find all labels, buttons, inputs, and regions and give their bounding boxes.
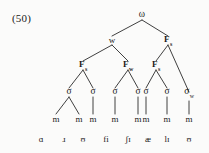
node-mora-4: m	[111, 115, 118, 124]
tree-edges	[0, 0, 209, 153]
node-syllable-3: σ	[112, 87, 117, 98]
foot-subscript: s	[158, 66, 160, 72]
edge-sigma1-mora2	[69, 97, 79, 114]
node-segment-1: ɑ	[39, 135, 44, 144]
node-segment-6: æ	[145, 135, 151, 144]
node-mora-7: m	[163, 115, 170, 124]
example-figure: (50)	[0, 0, 209, 153]
foot-letter: F	[79, 59, 85, 69]
node-segment-4: fi	[103, 135, 109, 144]
node-mora-2: m	[75, 115, 82, 124]
node-segment-3: ʊ	[81, 135, 86, 144]
node-mora-3: m	[89, 115, 96, 124]
node-prosodic-word: ω	[139, 10, 145, 20]
node-foot-strong-2: Fs	[152, 60, 160, 71]
node-foot-weak-1: Fw	[123, 60, 133, 71]
sigma-letter: σ	[135, 86, 140, 96]
node-mora-9: m	[185, 115, 192, 124]
foot-letter: F	[152, 59, 158, 69]
sigma-subscript: w	[190, 93, 194, 99]
node-strong-foot-group: Fs	[164, 35, 172, 46]
node-segment-8: ʊ	[187, 135, 192, 144]
node-syllable-2: σ	[90, 87, 95, 98]
sigma-letter: σ	[90, 86, 95, 96]
foot-subscript: s	[85, 66, 87, 72]
sigma-letter: σ	[112, 86, 117, 96]
node-mora-6: m	[142, 115, 149, 124]
foot-letter: F	[123, 59, 129, 69]
node-syllable-6: σ	[164, 87, 169, 98]
node-syllable-4: σ	[135, 87, 140, 98]
foot-subscript: s	[170, 41, 172, 47]
node-segment-7: lɪ	[164, 135, 169, 144]
node-segment-2: ɹ	[63, 135, 66, 144]
node-syllable-5: σ	[143, 87, 148, 98]
edge-omega-w	[112, 20, 142, 36]
edge-w-foot1	[83, 45, 112, 61]
foot-letter: F	[164, 34, 170, 44]
sigma-letter: σ	[164, 86, 169, 96]
node-weak-branch: w	[109, 36, 116, 45]
node-segment-5: ʃɪ	[125, 135, 131, 144]
sigma-letter: σ	[143, 86, 148, 96]
edge-sigma1-mora1	[56, 97, 69, 114]
foot-subscript: w	[129, 66, 133, 72]
node-foot-strong-1: Fs	[79, 60, 87, 71]
node-mora-1: m	[52, 115, 59, 124]
node-mora-5: m	[134, 115, 141, 124]
sigma-letter: σ	[66, 86, 71, 96]
node-syllable-1: σ	[66, 87, 71, 98]
node-syllable-7-weak: σw	[184, 87, 193, 98]
